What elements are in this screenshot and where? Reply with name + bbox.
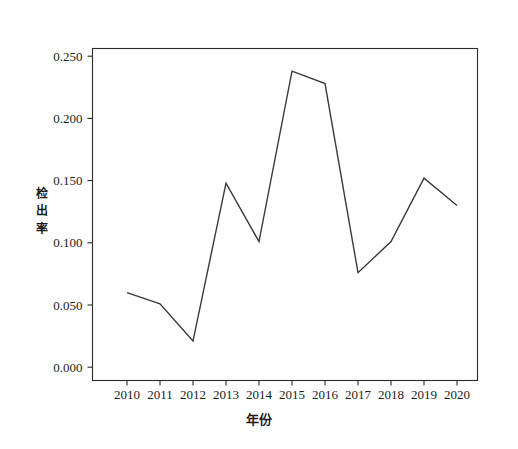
x-tick-label: 2012 bbox=[180, 387, 206, 402]
x-axis-tick-labels: 2010201120122013201420152016201720182019… bbox=[114, 387, 470, 402]
x-tick-label: 2019 bbox=[411, 387, 437, 402]
x-tick-label: 2010 bbox=[114, 387, 140, 402]
x-tick-label: 2014 bbox=[246, 387, 273, 402]
x-tick-label: 2018 bbox=[378, 387, 404, 402]
y-axis-title-char-3: 率 bbox=[33, 221, 51, 238]
x-tick-label: 2016 bbox=[312, 387, 339, 402]
y-tick-label: 0.100 bbox=[53, 235, 82, 250]
x-tick-label: 2020 bbox=[444, 387, 470, 402]
y-tick-label: 0.250 bbox=[53, 49, 82, 64]
x-tick-label: 2011 bbox=[147, 387, 173, 402]
y-tick-label: 0.150 bbox=[53, 173, 82, 188]
chart-canvas: 0.2500.2000.1500.1000.0500.000 201020112… bbox=[0, 0, 518, 449]
line-chart-figure: 0.2500.2000.1500.1000.0500.000 201020112… bbox=[0, 0, 518, 449]
y-axis-title: 检 出 率 bbox=[33, 186, 51, 238]
y-axis-title-char-2: 出 bbox=[33, 203, 51, 220]
x-tick-label: 2013 bbox=[213, 387, 239, 402]
x-tick-label: 2015 bbox=[279, 387, 305, 402]
y-tick-label: 0.050 bbox=[53, 298, 82, 313]
y-tick-label: 0.200 bbox=[53, 111, 82, 126]
x-axis-title: 年份 bbox=[0, 409, 518, 428]
y-axis-title-char-1: 检 bbox=[33, 186, 51, 203]
y-tick-label: 0.000 bbox=[53, 360, 82, 375]
x-tick-label: 2017 bbox=[345, 387, 372, 402]
